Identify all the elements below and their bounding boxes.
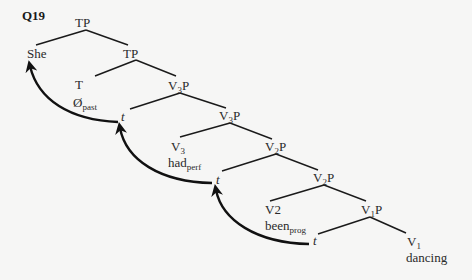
node-she: She (27, 46, 47, 61)
node-v3p-upper: V3P (168, 78, 189, 95)
node-trace-1: t (121, 109, 125, 124)
node-v3-head: V3 (171, 139, 185, 156)
node-v3p-lower: V3P (219, 108, 240, 125)
edge-tp2-t (95, 60, 136, 76)
node-trace-2: t (216, 172, 220, 187)
node-tp: TP (123, 46, 138, 61)
node-tp-root: TP (75, 15, 90, 30)
node-v2p-upper: V2P (265, 139, 286, 156)
node-v1p: V1P (361, 202, 382, 219)
syntax-tree-diagram: Q19 TP She TP T Øpast V3P t V3P V3 hadpe… (0, 0, 472, 280)
edge-v3p-trace1 (130, 93, 180, 109)
node-v3-word: hadperf (168, 155, 201, 172)
edge-v2p-v2p (276, 154, 318, 170)
question-label: Q19 (22, 8, 46, 23)
node-v2-word: beenprog (265, 218, 307, 235)
edge-tp1-tp2 (86, 30, 128, 45)
edge-v2p-trace2 (222, 154, 276, 171)
node-v1-head: V1 (407, 234, 421, 251)
movement-arrow-trace1-to-she (30, 66, 118, 122)
edge-v2p-v2 (270, 185, 324, 201)
node-v2p-lower: V2P (313, 170, 334, 187)
edge-tp1-she (36, 30, 86, 45)
edge-v1p-trace3 (318, 217, 370, 234)
node-trace-3: t (313, 233, 317, 248)
edge-v3p-v3p (180, 93, 226, 108)
node-v1-word: dancing (406, 250, 448, 265)
movement-arrow-trace3-to-trace2 (216, 190, 309, 244)
node-v2-head: V2 (265, 202, 281, 217)
edge-v3p-v2p (230, 123, 272, 139)
node-t-head: T (75, 77, 83, 92)
edge-v1p-v1 (370, 217, 406, 233)
edge-tp2-v3p (136, 60, 176, 76)
node-t-word: Øpast (73, 95, 97, 112)
edge-v3p-v3 (180, 123, 230, 137)
movement-arrow-trace2-to-trace1 (120, 128, 212, 183)
edge-v2p-v1p (324, 185, 366, 201)
